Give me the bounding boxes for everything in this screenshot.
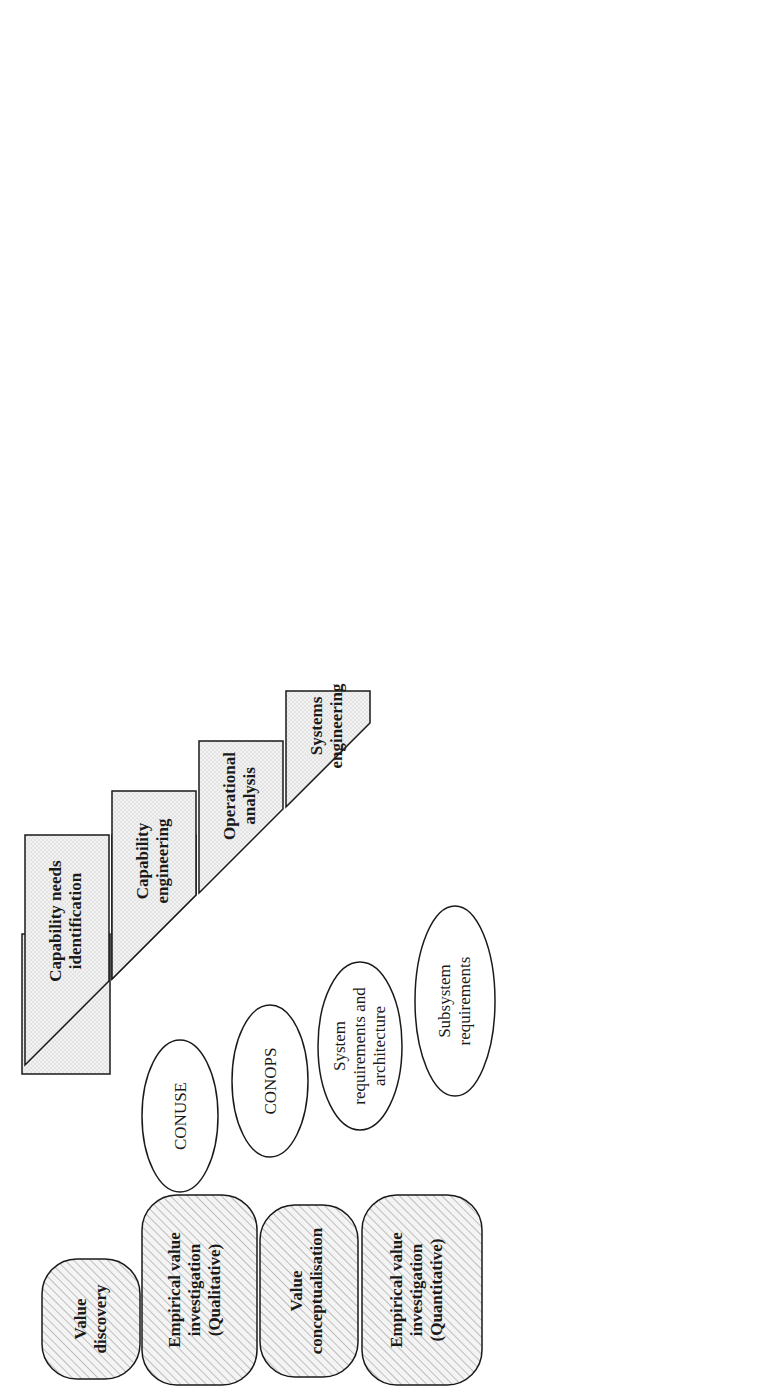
deliverable-conops: CONOPS xyxy=(232,1005,308,1157)
svg-text:CONUSE: CONUSE xyxy=(171,1082,190,1150)
value-box-empirical-quantitative: Empirical valueinvestigation(Quantitativ… xyxy=(362,1195,482,1385)
v-left-arm: Capability needsidentification Capabilit… xyxy=(25,683,370,1065)
svg-text:Subsystemrequirements: Subsystemrequirements xyxy=(435,957,474,1046)
deliverable-subsystem-requirements: Subsystemrequirements xyxy=(415,906,495,1096)
svg-text:CONOPS: CONOPS xyxy=(261,1047,280,1114)
deliverable-system-requirements: Systemrequirements andarchitecture xyxy=(318,962,402,1130)
svg-text:Empirical valueinvestigation(Q: Empirical valueinvestigation(Qualitative… xyxy=(165,1232,224,1348)
value-box-empirical-qualitative: Empirical valueinvestigation(Qualitative… xyxy=(142,1195,257,1385)
value-processes-left: Valuediscovery Empirical valueinvestigat… xyxy=(42,1195,482,1385)
diagram-canvas: Valuediscovery Empirical valueinvestigat… xyxy=(0,0,784,1391)
svg-text:Empirical valueinvestigation(Q: Empirical valueinvestigation(Quantitativ… xyxy=(387,1232,446,1348)
svg-text:Capability needsidentification: Capability needsidentification xyxy=(46,860,85,982)
left-deliverables: CONUSE CONOPS Systemrequirements andarch… xyxy=(142,906,495,1192)
value-box-conceptualisation: Valueconceptualisation xyxy=(260,1205,358,1377)
v-model-diagram: Valuediscovery Empirical valueinvestigat… xyxy=(0,0,784,1391)
svg-text:Capabilityengineering: Capabilityengineering xyxy=(133,818,172,903)
value-box-discovery: Valuediscovery xyxy=(42,1259,140,1379)
deliverable-conuse: CONUSE xyxy=(142,1040,218,1192)
